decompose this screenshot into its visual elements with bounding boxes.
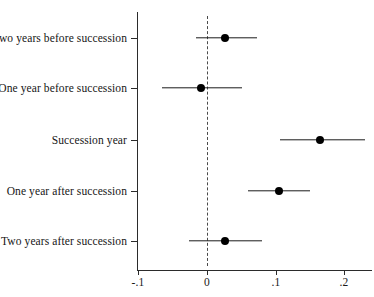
x-tick-label-point-1: .1	[271, 276, 280, 288]
coefficient-plot: Two years before succession One year bef…	[0, 0, 374, 297]
point-estimate-marker	[221, 237, 229, 245]
zero-reference-line	[207, 16, 208, 266]
y-tick-0	[131, 38, 137, 39]
y-axis-label-succession-year: Succession year	[52, 134, 127, 146]
x-axis-line	[137, 270, 372, 271]
point-estimate-marker	[316, 136, 324, 144]
point-estimate-marker	[197, 84, 205, 92]
x-tick-label-point-2: .2	[339, 276, 348, 288]
x-tick-label-neg-point-1: -.1	[131, 276, 144, 288]
x-tick-3	[344, 270, 345, 275]
x-tick-1	[207, 270, 208, 275]
y-axis-label-one-year-after: One year after succession	[7, 185, 127, 197]
y-axis-label-one-year-before: One year before succession	[0, 82, 127, 94]
point-estimate-marker	[221, 34, 229, 42]
y-tick-2	[131, 140, 137, 141]
x-tick-label-zero: 0	[204, 276, 210, 288]
y-axis-label-two-years-after: Two years after succession	[1, 235, 127, 247]
point-estimate-marker	[275, 187, 283, 195]
y-axis-line	[137, 12, 138, 270]
y-tick-1	[131, 88, 137, 89]
y-tick-4	[131, 241, 137, 242]
y-tick-3	[131, 191, 137, 192]
x-tick-0	[138, 270, 139, 275]
x-tick-2	[276, 270, 277, 275]
y-axis-label-two-years-before: Two years before succession	[0, 32, 127, 44]
